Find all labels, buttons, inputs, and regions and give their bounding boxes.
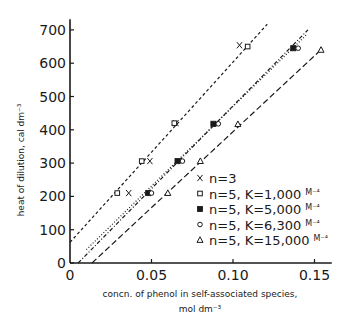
y-tick-label: 300 <box>39 155 66 171</box>
data-point-open-triangle <box>165 190 171 196</box>
data-point-open-square <box>172 121 177 126</box>
y-tick-label: 600 <box>39 55 66 71</box>
y-tick-label: 500 <box>39 89 66 105</box>
legend-unit: M⁻⁴ <box>305 219 319 228</box>
x-tick-label: 0.15 <box>299 267 330 283</box>
x-tick-label: 0.10 <box>217 267 248 283</box>
y-tick-label: 100 <box>39 222 66 238</box>
x-tick-label: 0 <box>66 267 75 283</box>
data-point-open-circle <box>216 122 221 127</box>
x-tick-label: 0.05 <box>136 267 167 283</box>
chart: 010020030040050060070000.050.100.15 n=3n… <box>0 0 346 321</box>
data-point-x <box>126 190 131 196</box>
legend-unit: M⁻⁴ <box>305 203 319 212</box>
legend-marker-filled-square <box>197 206 202 211</box>
data-point-filled-square <box>291 46 296 51</box>
legend-label: n=5, K=1,000 <box>209 187 301 202</box>
y-axis-label: heat of dilution, cal dm⁻³ <box>16 103 26 216</box>
data-point-open-circle <box>149 191 154 196</box>
y-tick-label: 700 <box>39 22 66 38</box>
y-tick-label: 200 <box>39 188 66 204</box>
data-point-open-circle <box>296 46 301 51</box>
data-point-open-square <box>115 191 120 196</box>
legend-label: n=5, K=6,300 <box>209 218 301 233</box>
x-axis-unit: mol dm⁻³ <box>179 304 222 314</box>
data-point-open-square <box>139 159 144 164</box>
x-axis-label: concn. of phenol in self-associated spec… <box>103 289 298 299</box>
legend-label: n=5, K=5,000 <box>209 202 301 217</box>
data-point-x <box>147 158 152 164</box>
legend-unit: M⁻⁴ <box>305 188 319 197</box>
legend-marker-open-square <box>198 191 203 196</box>
data-point-x <box>237 42 242 48</box>
legend: n=3n=5, K=1,000M⁻⁴n=5, K=5,000M⁻⁴n=5, K=… <box>197 171 328 248</box>
legend-marker-open-circle <box>198 222 203 227</box>
legend-marker-x <box>197 175 202 181</box>
legend-label: n=3 <box>209 171 236 186</box>
legend-unit: M⁻⁴ <box>314 234 328 243</box>
data-point-open-triangle <box>197 158 203 164</box>
data-point-open-triangle <box>318 47 324 53</box>
data-point-filled-square <box>211 121 216 126</box>
legend-label: n=5, K=15,000 <box>209 233 310 248</box>
legend-marker-open-triangle <box>197 237 203 243</box>
data-point-open-square <box>245 44 250 49</box>
data-point-open-triangle <box>235 121 241 127</box>
data-point-open-circle <box>180 159 185 164</box>
data-point-filled-square <box>175 159 180 164</box>
y-tick-label: 400 <box>39 122 66 138</box>
